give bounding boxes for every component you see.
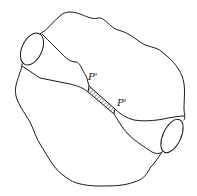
hatched-segment — [88, 86, 115, 114]
point-label-upper: P' — [88, 72, 97, 82]
surface-diagram — [0, 0, 197, 196]
right-opening — [156, 116, 188, 156]
point-label-lower: P' — [117, 98, 126, 108]
